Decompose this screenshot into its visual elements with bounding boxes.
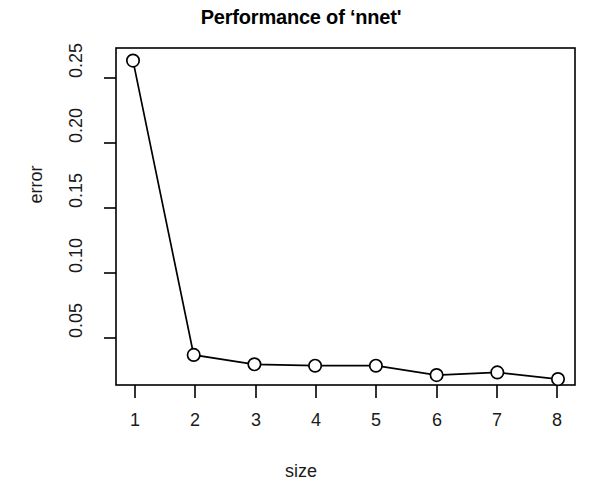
- plot-area: [0, 0, 602, 496]
- data-point: [552, 373, 564, 385]
- plot-box-border: [116, 48, 575, 385]
- data-series-markers: [127, 54, 564, 385]
- y-axis-ticks: [104, 78, 116, 338]
- data-point: [248, 358, 260, 370]
- x-axis-ticks: [135, 385, 557, 398]
- data-point: [491, 366, 503, 378]
- data-point: [370, 360, 382, 372]
- data-series-line: [133, 61, 558, 380]
- data-point: [127, 54, 139, 66]
- data-point: [309, 360, 321, 372]
- data-point: [430, 369, 442, 381]
- chart-figure: Performance of ‘nnet' error size 0.05 0.…: [0, 0, 602, 496]
- data-point: [188, 349, 200, 361]
